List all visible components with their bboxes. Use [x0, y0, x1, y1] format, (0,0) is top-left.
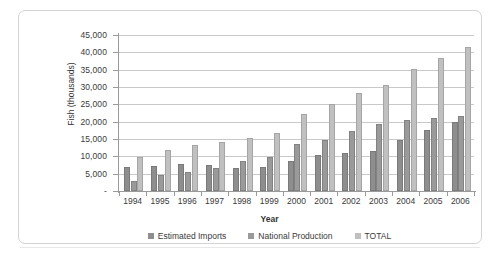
- legend-item-total[interactable]: TOTAL: [355, 231, 392, 241]
- y-axis-tick-label: -: [47, 186, 107, 196]
- bar-imports-2004: [397, 140, 403, 191]
- bar-group: [342, 35, 362, 191]
- legend-swatch-icon: [148, 233, 154, 239]
- legend-item-imports[interactable]: Estimated Imports: [148, 231, 227, 241]
- bar-production-2001: [322, 140, 328, 191]
- chart-figure: Fish (thousands) -5,00010,00015,00020,00…: [0, 0, 501, 257]
- y-axis-tick-label: 40,000: [47, 47, 107, 57]
- bar-group: [288, 35, 308, 191]
- bar-imports-1999: [260, 167, 266, 191]
- x-axis-title: Year: [19, 214, 501, 224]
- x-axis-tick-label: 1996: [173, 196, 201, 206]
- bar-production-1999: [267, 157, 273, 191]
- bar-total-2002: [356, 93, 362, 191]
- bar-production-2000: [294, 144, 300, 191]
- bar-total-1994: [137, 157, 143, 191]
- bar-total-2000: [301, 114, 307, 191]
- bar-group: [178, 35, 198, 191]
- bar-production-2004: [404, 120, 410, 191]
- bar-total-1996: [192, 145, 198, 191]
- bar-production-1994: [131, 181, 137, 191]
- bar-production-1995: [158, 175, 164, 191]
- bar-total-1997: [219, 142, 225, 191]
- bar-imports-2005: [424, 130, 430, 191]
- bar-group: [233, 35, 253, 191]
- x-axis-tick-label: 1997: [201, 196, 229, 206]
- y-axis-tick-label: 5,000: [47, 169, 107, 179]
- bar-imports-2000: [288, 161, 294, 191]
- bar-group: [206, 35, 226, 191]
- x-axis-line: [118, 191, 476, 192]
- y-axis-tick-label: 45,000: [47, 30, 107, 40]
- bar-total-2001: [329, 104, 335, 191]
- legend-label: National Production: [258, 231, 332, 241]
- y-axis-tick-label: 25,000: [47, 99, 107, 109]
- y-axis-tick-label: 30,000: [47, 82, 107, 92]
- plot-area: [119, 35, 474, 191]
- y-axis-tick-label: 10,000: [47, 151, 107, 161]
- bar-group: [315, 35, 335, 191]
- bar-total-2006: [465, 47, 471, 191]
- bar-imports-1995: [151, 166, 157, 191]
- x-axis-tick-label: 2000: [283, 196, 311, 206]
- bar-group: [424, 35, 444, 191]
- bar-production-1996: [185, 172, 191, 191]
- bar-imports-1998: [233, 168, 239, 191]
- x-axis-tick-label: 1999: [255, 196, 283, 206]
- legend-label: Estimated Imports: [158, 231, 227, 241]
- legend-swatch-icon: [355, 233, 361, 239]
- legend-item-production[interactable]: National Production: [248, 231, 332, 241]
- bar-group: [397, 35, 417, 191]
- bar-imports-2001: [315, 155, 321, 191]
- x-axis-tick-label: 1994: [119, 196, 147, 206]
- bar-group: [260, 35, 280, 191]
- x-axis-tick-label: 2006: [446, 196, 474, 206]
- bar-production-2005: [431, 118, 437, 191]
- bar-production-1997: [213, 168, 219, 191]
- legend-swatch-icon: [248, 233, 254, 239]
- bar-group: [370, 35, 390, 191]
- bar-group: [452, 35, 472, 191]
- bar-total-1998: [247, 138, 253, 191]
- bar-production-1998: [240, 161, 246, 192]
- y-axis-tick-label: 35,000: [47, 65, 107, 75]
- bar-imports-2003: [370, 151, 376, 191]
- bar-imports-1997: [206, 165, 212, 191]
- chart-legend: Estimated ImportsNational ProductionTOTA…: [19, 231, 501, 241]
- x-axis-tick-label: 1998: [228, 196, 256, 206]
- bar-total-2003: [383, 85, 389, 191]
- bar-imports-1994: [124, 167, 130, 191]
- legend-label: TOTAL: [365, 231, 392, 241]
- bar-imports-2006: [452, 122, 458, 191]
- x-axis-tick-label: 2002: [337, 196, 365, 206]
- bar-group: [124, 35, 144, 191]
- y-axis-tick-label: 20,000: [47, 117, 107, 127]
- bar-production-2003: [376, 124, 382, 191]
- x-axis-tick-label: 2004: [392, 196, 420, 206]
- x-axis-tick-label: 2003: [364, 196, 392, 206]
- x-axis-tick-label: 2001: [310, 196, 338, 206]
- bar-total-1995: [165, 150, 171, 191]
- bar-production-2002: [349, 131, 355, 191]
- chart-frame: Fish (thousands) -5,00010,00015,00020,00…: [18, 10, 482, 244]
- x-axis-tick: [474, 192, 475, 196]
- bar-imports-1996: [178, 164, 184, 191]
- bar-production-2006: [458, 116, 464, 191]
- bar-group: [151, 35, 171, 191]
- bottom-divider: [20, 247, 480, 248]
- x-axis-tick-label: 2005: [419, 196, 447, 206]
- bar-total-2005: [438, 58, 444, 191]
- bar-total-2004: [411, 69, 417, 191]
- bar-total-1999: [274, 133, 280, 191]
- x-axis-tick-label: 1995: [146, 196, 174, 206]
- bar-imports-2002: [342, 153, 348, 191]
- y-axis-tick-label: 15,000: [47, 134, 107, 144]
